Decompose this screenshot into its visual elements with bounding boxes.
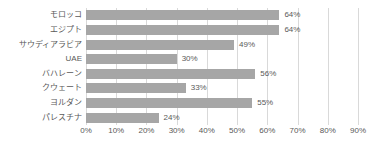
- category-label: モロッコ: [50, 8, 82, 23]
- x-tick-label: 90%: [350, 127, 366, 135]
- category-label: UAE: [66, 52, 82, 67]
- category-label: クウェート: [42, 81, 82, 96]
- bar-value-label: 49%: [239, 41, 255, 49]
- x-tick-label: 40%: [199, 127, 215, 135]
- bar-row: 64%: [86, 8, 358, 23]
- x-tick-label: 50%: [229, 127, 245, 135]
- category-label: ヨルダン: [50, 96, 82, 111]
- gridline: [358, 8, 359, 125]
- bar: [86, 10, 279, 20]
- bar-row: 64%: [86, 23, 358, 38]
- bar-rows: 64%64%49%30%56%33%55%24%: [86, 8, 358, 125]
- x-axis-labels: 0%10%20%30%40%50%60%70%80%90%: [86, 127, 358, 141]
- x-tick-label: 30%: [169, 127, 185, 135]
- bar-chart: モロッコエジプトサウディアラビアUAEバハレーンクウェートヨルダンパレスチナ 6…: [0, 0, 383, 147]
- category-label: サウディアラビア: [19, 37, 82, 52]
- bar-value-label: 64%: [284, 26, 300, 34]
- bar: [86, 98, 252, 108]
- bar: [86, 40, 234, 50]
- x-tick-label: 60%: [259, 127, 275, 135]
- bar-value-label: 24%: [164, 114, 180, 122]
- plot-area: 64%64%49%30%56%33%55%24%: [86, 8, 358, 125]
- bar-row: 55%: [86, 96, 358, 111]
- bar: [86, 83, 186, 93]
- bar-row: 56%: [86, 67, 358, 82]
- bar-row: 49%: [86, 37, 358, 52]
- bar-value-label: 64%: [284, 11, 300, 19]
- bar-value-label: 56%: [260, 70, 276, 78]
- x-tick-label: 80%: [320, 127, 336, 135]
- bar-row: 30%: [86, 52, 358, 67]
- bar: [86, 25, 279, 35]
- bar-value-label: 33%: [191, 84, 207, 92]
- bar: [86, 113, 159, 123]
- category-label: エジプト: [50, 23, 82, 38]
- x-tick-label: 10%: [108, 127, 124, 135]
- bar: [86, 69, 255, 79]
- x-tick-label: 70%: [290, 127, 306, 135]
- x-tick-label: 0%: [80, 127, 92, 135]
- category-axis-labels: モロッコエジプトサウディアラビアUAEバハレーンクウェートヨルダンパレスチナ: [0, 8, 82, 125]
- bar-value-label: 55%: [257, 99, 273, 107]
- category-label: バハレーン: [42, 67, 82, 82]
- category-label: パレスチナ: [42, 110, 82, 125]
- bar: [86, 54, 177, 64]
- bar-row: 24%: [86, 110, 358, 125]
- x-tick-label: 20%: [138, 127, 154, 135]
- bar-value-label: 30%: [182, 55, 198, 63]
- bar-row: 33%: [86, 81, 358, 96]
